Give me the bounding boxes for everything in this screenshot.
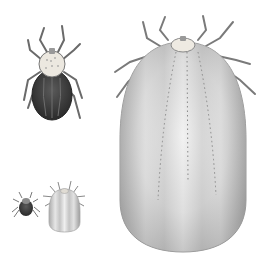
engorged-tick-head xyxy=(180,36,186,41)
tick-illustration xyxy=(0,0,276,258)
unfed-tick-head xyxy=(49,48,55,54)
unfed-tick-scutum xyxy=(39,51,65,77)
small-unfed-tick xyxy=(12,192,40,217)
small-engorged-tick xyxy=(43,181,85,232)
